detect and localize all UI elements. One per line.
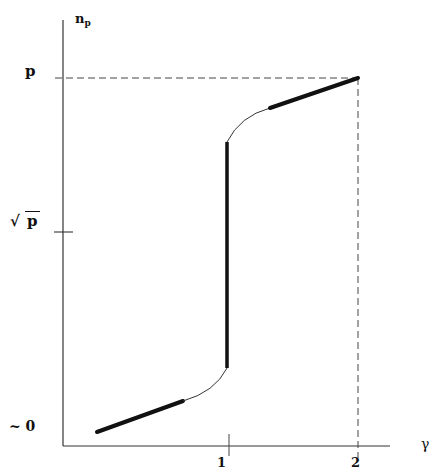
y-axis-label: np [75, 12, 91, 25]
y-axis-label-subscript: p [84, 18, 90, 28]
curve-upper-thick-segment [270, 78, 358, 108]
step-transition-plot: np p √ p ~ 0 1 2 γ [0, 0, 440, 475]
curve-upper-thin-bend [227, 108, 270, 142]
curve-lower-thin-bend [183, 368, 227, 401]
curve-lower-thick-segment [97, 401, 183, 432]
x-tick-label-2: 2 [351, 456, 360, 469]
y-tick-label-sqrt-p: √ p [10, 214, 40, 229]
y-tick-label-p: p [25, 64, 36, 79]
y-tick-label-approx-zero: ~ 0 [9, 419, 35, 433]
sqrt-argument: p [25, 211, 40, 230]
x-axis-label: γ [421, 437, 429, 451]
plot-canvas [0, 0, 440, 475]
x-tick-label-1: 1 [217, 456, 226, 469]
sqrt-symbol: √ [10, 212, 20, 230]
